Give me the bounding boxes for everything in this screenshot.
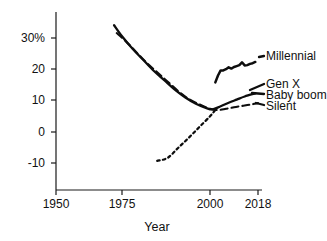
y-tick-label-neg10: -10 [28,156,46,170]
y-tick-label-10: 10 [32,93,46,107]
x-tick-label-2018: 2018 [245,197,272,211]
series-label-millennial: Millennial [266,49,316,63]
series-path-millennial [215,62,255,82]
series-labels: Millennial Gen X Baby boom Silent [266,49,327,113]
y-tick-label-30: 30% [21,31,45,45]
leader-silent [256,103,264,105]
series-label-silent: Silent [266,99,297,113]
leader-millennial [259,56,264,57]
y-tick-label-20: 20 [32,62,46,76]
leader-baby-boom [252,93,264,94]
x-tick-label-2000: 2000 [197,197,224,211]
chart-container: 30% 20 10 0 -10 1950 1975 2000 2018 Year… [0,0,327,241]
line-chart: 30% 20 10 0 -10 1950 1975 2000 2018 Year… [0,0,327,241]
x-tick-label-1975: 1975 [109,197,136,211]
y-tick-label-0: 0 [38,125,45,139]
series-path-gen-x [157,110,215,161]
leader-gen-x [250,84,264,90]
x-axis-title: Year [144,220,169,234]
x-tick-label-1950: 1950 [43,197,70,211]
x-axis-ticks: 1950 1975 2000 2018 [43,190,272,211]
series-group [114,25,264,161]
y-axis-ticks: 30% 20 10 0 -10 [21,31,56,170]
